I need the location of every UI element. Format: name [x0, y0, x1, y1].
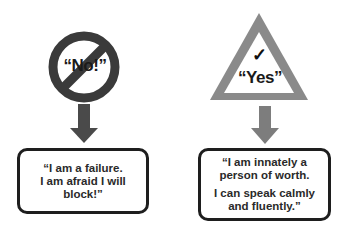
- positive-thought-line: and fluently.”: [228, 200, 301, 213]
- no-sign-label: “No!”: [58, 56, 112, 76]
- positive-thought-box: “I am innately a person of worth. I can …: [198, 148, 331, 221]
- checkmark-icon: ✓: [248, 44, 270, 66]
- positive-thought-line: “I am innately a: [222, 156, 307, 169]
- right-arrow-down-icon: [251, 106, 279, 144]
- positive-thought-line: person of worth.: [219, 169, 309, 182]
- negative-thought-box: “I am a failure. I am afraid I will bloc…: [17, 148, 149, 214]
- negative-thought-line: block!”: [63, 188, 103, 201]
- yes-sign-label: “Yes”: [234, 68, 286, 88]
- negative-thought-line: I am afraid I will: [40, 175, 126, 188]
- negative-thought-line: “I am a failure.: [43, 162, 122, 175]
- left-arrow-down-icon: [70, 104, 98, 143]
- positive-thought-line: I can speak calmly: [214, 187, 315, 200]
